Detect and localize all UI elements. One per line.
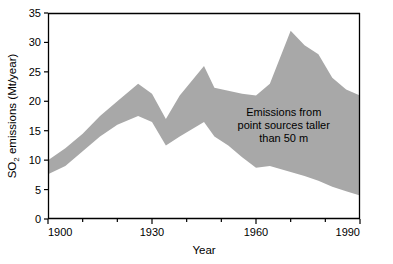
annotation-line-0: Emissions from xyxy=(246,106,321,118)
y-axis-tick-labels: 05101520253035 xyxy=(29,7,41,225)
y-tick-label-35: 35 xyxy=(29,7,41,19)
annotation-line-1: point sources taller xyxy=(238,119,331,131)
y-axis-title: SO2 emissions (Mt/year) xyxy=(6,54,21,179)
x-axis-ticks xyxy=(48,219,360,224)
y-tick-label-20: 20 xyxy=(29,95,41,107)
annotation-line-2: than 50 m xyxy=(259,132,308,144)
y-tick-label-30: 30 xyxy=(29,36,41,48)
y-tick-label-25: 25 xyxy=(29,66,41,78)
x-tick-label-1990: 1990 xyxy=(336,226,360,238)
y-axis-ticks xyxy=(44,13,48,219)
x-tick-label-1960: 1960 xyxy=(244,226,268,238)
y-tick-label-0: 0 xyxy=(35,213,41,225)
y-tick-label-5: 5 xyxy=(35,184,41,196)
x-axis-tick-labels: 1900193019601990 xyxy=(48,226,360,238)
x-tick-label-1930: 1930 xyxy=(140,226,164,238)
chart-figure: 05101520253035 1900193019601990 SO2 emis… xyxy=(0,0,393,264)
x-tick-label-1900: 1900 xyxy=(48,226,72,238)
x-axis-title: Year xyxy=(192,244,215,256)
y-tick-label-10: 10 xyxy=(29,154,41,166)
so2-emissions-area-chart: 05101520253035 1900193019601990 SO2 emis… xyxy=(0,0,393,264)
y-tick-label-15: 15 xyxy=(29,125,41,137)
y-axis-title-prefix: SO xyxy=(6,162,18,179)
y-axis-title-suffix: emissions (Mt/year) xyxy=(6,54,18,158)
